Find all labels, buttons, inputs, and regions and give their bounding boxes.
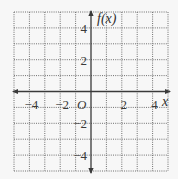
labels: x f(x) O −4−22442−2−4 — [24, 11, 169, 163]
x-axis-left-arrow-icon — [12, 89, 18, 94]
y-tick-label: 2 — [81, 53, 88, 68]
x-tick-label: 2 — [121, 97, 128, 112]
y-axis-up-arrow-icon — [88, 10, 93, 16]
y-tick-label: −4 — [73, 148, 87, 163]
x-tick-label: −4 — [24, 97, 38, 112]
y-tick-label: 4 — [81, 21, 88, 36]
y-axis-title: f(x) — [97, 11, 117, 27]
x-tick-label: 4 — [151, 97, 158, 112]
y-tick-label: −2 — [73, 116, 87, 131]
origin-label: O — [77, 97, 87, 112]
x-axis-title: x — [161, 94, 169, 109]
coordinate-plane: x f(x) O −4−22442−2−4 — [0, 0, 178, 179]
axes — [12, 10, 171, 174]
x-tick-label: −2 — [55, 97, 69, 112]
